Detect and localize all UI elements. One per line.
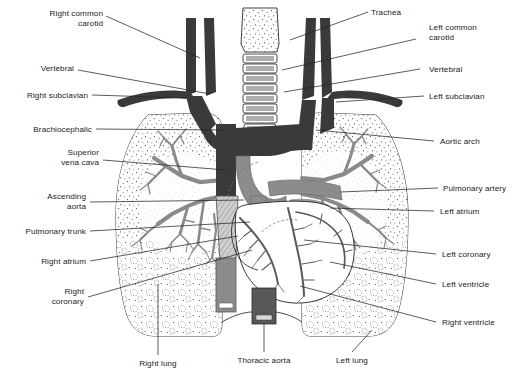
label-text: Right atrium [41,257,86,266]
label-text: Right ventricle [442,318,495,327]
label-right-subclavian: Right subclavian [27,91,88,100]
label-text: Trachea [371,8,401,17]
label-pulmonary-artery: Pulmonary artery [443,184,507,193]
label-text-line2: coronary [52,297,85,306]
ivc-stump [216,258,236,312]
label-text: Thoracic aorta [237,356,291,365]
label-text-line2: vena cava [61,158,99,167]
label-vertebral-right: Vertebral [41,64,74,73]
label-left-subclavian: Left subclavian [429,92,485,101]
label-left-lung: Left lung [336,356,368,365]
label-text-line2: aorta [67,202,86,211]
label-text: Pulmonary artery [443,184,507,193]
label-text: Left coronary [442,250,491,259]
label-left-coronary: Left coronary [442,250,491,259]
label-text: Ascending [47,192,86,201]
label-right-coronary: Right coronary [52,287,85,306]
label-thoracic-aorta: Thoracic aorta [237,356,291,365]
label-text: Left ventricle [442,280,490,289]
label-ascending-aorta: Ascending aorta [47,192,86,211]
label-text: Right subclavian [27,91,88,100]
label-text: Left lung [336,356,368,365]
label-text: Left atrium [440,207,479,216]
label-text-line2: carotid [429,33,454,42]
label-right-common-carotid: Right common carotid [50,9,103,28]
label-left-atrium: Left atrium [440,207,479,216]
label-text: Left subclavian [429,92,485,101]
label-pulmonary-trunk: Pulmonary trunk [26,227,87,236]
label-text: Aortic arch [440,137,480,146]
label-vertebral-left: Vertebral [429,65,462,74]
label-text: Superior [68,148,100,157]
label-text: Left common [429,23,477,32]
label-text: Brachiocephalic [33,125,92,134]
thorax-diagram-svg: Right common carotid Vertebral Right sub… [0,0,526,385]
label-left-ventricle: Left ventricle [442,280,490,289]
thoracic-aorta-stump [252,288,276,324]
label-text: Right lung [139,359,176,368]
heart-shape [232,201,355,303]
anatomy-figure: Right common carotid Vertebral Right sub… [0,0,526,385]
label-text: Pulmonary trunk [26,227,87,236]
label-right-ventricle: Right ventricle [442,318,495,327]
label-text: Right [65,287,85,296]
label-text: Vertebral [41,64,74,73]
superior-vena-cava-cut [216,196,238,262]
label-right-atrium: Right atrium [41,257,86,266]
label-trachea: Trachea [371,8,401,17]
label-text: Vertebral [429,65,462,74]
label-left-common-carotid: Left common carotid [429,23,477,42]
label-text: Right common [50,9,103,18]
label-brachiocephalic: Brachiocephalic [33,125,92,134]
label-superior-vena-cava: Superior vena cava [61,148,99,167]
label-text-line2: carotid [78,19,103,28]
label-aortic-arch: Aortic arch [440,137,480,146]
label-right-lung: Right lung [139,359,176,368]
